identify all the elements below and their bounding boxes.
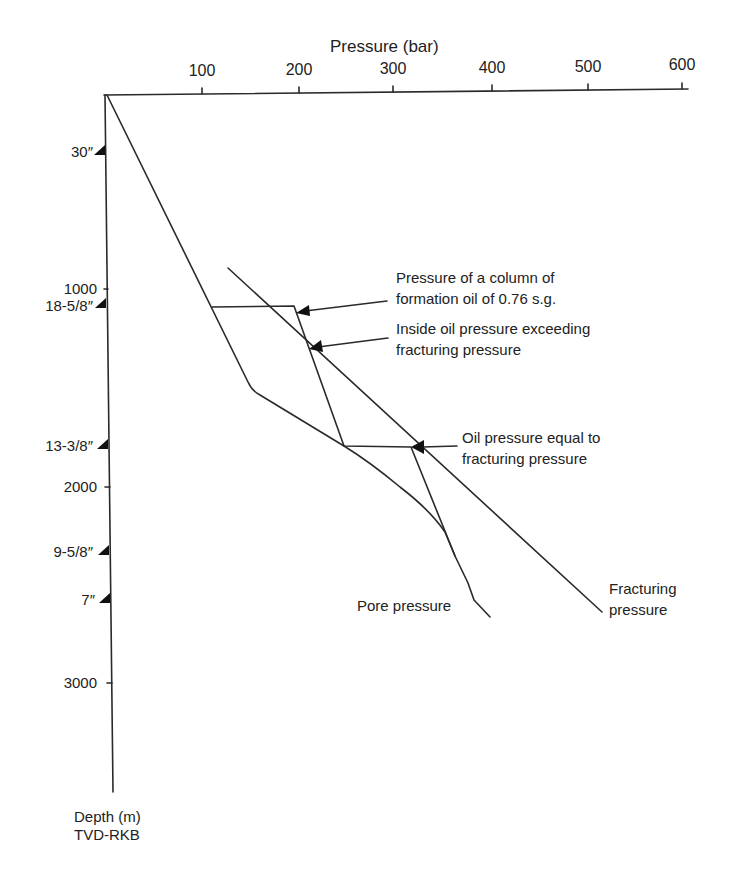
arrow-1-shaft xyxy=(305,301,387,311)
casing-label: 18-5/8″ xyxy=(13,297,93,314)
casing-shoe-30-icon xyxy=(94,145,105,155)
annotation-oil-column: Pressure of a column of formation oil of… xyxy=(396,269,556,308)
arrow-2-shaft xyxy=(318,338,388,347)
casing-label: 13-3/8″ xyxy=(13,437,93,454)
annotation-line: fracturing pressure xyxy=(462,450,600,468)
annotation-line: Pressure of a column of xyxy=(396,269,556,287)
arrow-1-head-icon xyxy=(296,305,310,316)
casing-shoe-18-icon xyxy=(95,298,106,308)
y-axis-title: Depth (m) xyxy=(74,808,141,826)
fracturing-pressure-label: Fracturing pressure xyxy=(609,580,677,619)
annotation-equal-fracturing: Oil pressure equal to fracturing pressur… xyxy=(462,429,600,468)
casing-label: 7″ xyxy=(15,591,95,608)
y-tick-label: 2000 xyxy=(17,478,97,495)
casing-shoe-9-icon xyxy=(98,545,109,555)
y-tick-label: 1000 xyxy=(17,280,97,297)
casing-shoe-7-icon xyxy=(99,593,110,603)
x-tick-label: 100 xyxy=(189,62,216,80)
casing-shoe-13-icon xyxy=(97,439,108,449)
x-tick-label: 400 xyxy=(479,59,506,77)
casing-label: 9-5/8″ xyxy=(13,543,93,560)
annotation-line: fracturing pressure xyxy=(396,341,590,359)
annotation-line: Oil pressure equal to xyxy=(462,429,600,447)
y-axis-subtitle: TVD-RKB xyxy=(74,826,140,844)
x-axis-title: Pressure (bar) xyxy=(330,38,439,56)
annotation-line: formation oil of 0.76 s.g. xyxy=(396,290,556,308)
pore-pressure-label: Pore pressure xyxy=(357,597,451,615)
label-line: pressure xyxy=(609,601,677,619)
x-axis xyxy=(104,89,688,95)
arrow-2-head-icon xyxy=(309,340,323,352)
annotation-exceeding-fracturing: Inside oil pressure exceeding fracturing… xyxy=(396,320,590,359)
x-tick-label: 300 xyxy=(380,60,407,78)
pressure-depth-chart xyxy=(0,0,731,875)
y-tick-label: 3000 xyxy=(17,674,97,691)
x-tick-label: 500 xyxy=(575,58,602,76)
x-tick-label: 600 xyxy=(669,56,696,74)
x-axis-ticks xyxy=(202,83,682,94)
casing-label: 30″ xyxy=(13,143,93,160)
arrow-3-shaft xyxy=(422,446,457,447)
annotation-line: Inside oil pressure exceeding xyxy=(396,320,590,338)
x-tick-label: 200 xyxy=(286,61,313,79)
label-line: Fracturing xyxy=(609,580,677,598)
